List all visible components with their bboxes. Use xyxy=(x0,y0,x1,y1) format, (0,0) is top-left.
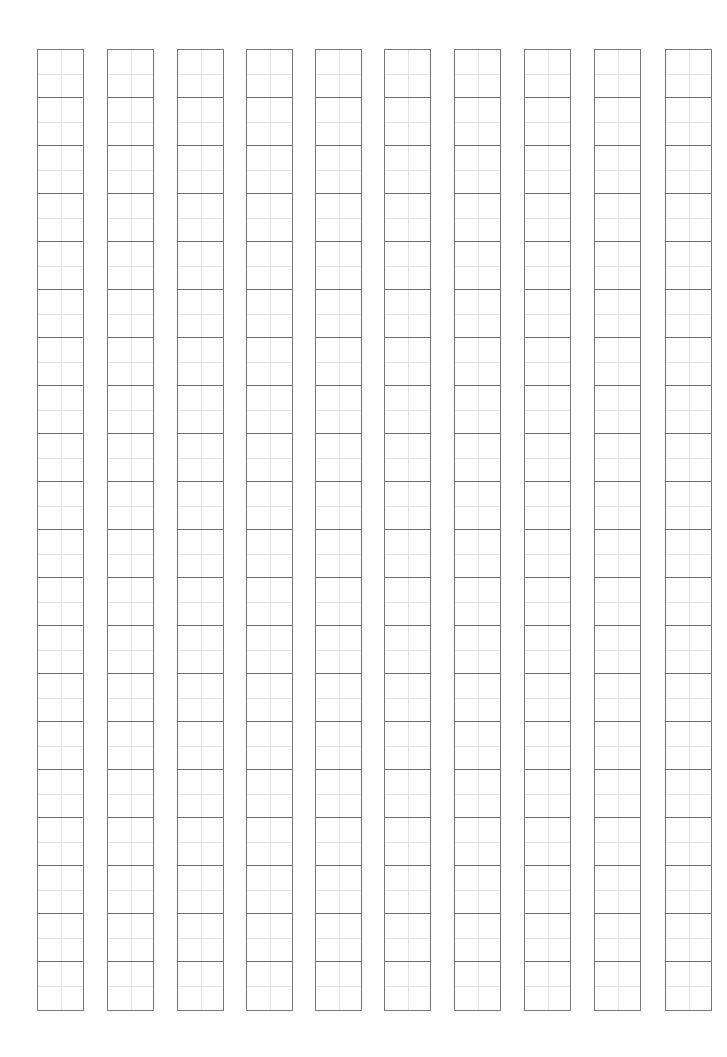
tianzige-cell xyxy=(247,146,292,194)
tianzige-cell xyxy=(525,146,570,194)
tianzige-cell xyxy=(316,578,361,626)
tianzige-cell xyxy=(316,530,361,578)
tianzige-cell xyxy=(316,482,361,530)
tianzige-cell xyxy=(385,818,430,866)
tianzige-cell xyxy=(595,386,640,434)
tianzige-cell xyxy=(247,626,292,674)
tianzige-cell xyxy=(595,50,640,98)
tianzige-cell xyxy=(455,866,500,914)
tianzige-cell xyxy=(178,50,223,98)
tianzige-cell xyxy=(385,146,430,194)
tianzige-cell xyxy=(178,722,223,770)
tianzige-cell xyxy=(385,866,430,914)
tianzige-cell xyxy=(38,770,83,818)
tianzige-cell xyxy=(38,146,83,194)
tianzige-cell xyxy=(108,626,153,674)
tianzige-cell xyxy=(178,482,223,530)
tianzige-cell xyxy=(385,242,430,290)
tianzige-cell xyxy=(247,722,292,770)
tianzige-cell xyxy=(247,770,292,818)
tianzige-cell xyxy=(385,98,430,146)
tianzige-cell xyxy=(178,578,223,626)
tianzige-cell xyxy=(385,482,430,530)
tianzige-cell xyxy=(666,578,711,626)
tianzige-cell xyxy=(38,866,83,914)
tianzige-cell xyxy=(455,578,500,626)
tianzige-cell xyxy=(666,722,711,770)
tianzige-cell xyxy=(595,626,640,674)
tianzige-cell xyxy=(385,962,430,1010)
tianzige-cell xyxy=(38,722,83,770)
tianzige-cell xyxy=(455,962,500,1010)
tianzige-cell xyxy=(595,674,640,722)
tianzige-cell xyxy=(666,818,711,866)
tianzige-cell xyxy=(385,386,430,434)
tianzige-cell xyxy=(247,866,292,914)
tianzige-cell xyxy=(247,50,292,98)
grid-column xyxy=(177,49,224,1011)
tianzige-cell xyxy=(455,194,500,242)
tianzige-cell xyxy=(525,290,570,338)
tianzige-cell xyxy=(178,770,223,818)
tianzige-cell xyxy=(108,482,153,530)
tianzige-cell xyxy=(247,194,292,242)
tianzige-cell xyxy=(455,674,500,722)
tianzige-cell xyxy=(595,866,640,914)
tianzige-cell xyxy=(316,194,361,242)
tianzige-cell xyxy=(666,146,711,194)
tianzige-cell xyxy=(455,386,500,434)
tianzige-cell xyxy=(525,578,570,626)
tianzige-cell xyxy=(38,98,83,146)
tianzige-cell xyxy=(385,434,430,482)
grid-column xyxy=(454,49,501,1011)
tianzige-cell xyxy=(595,914,640,962)
tianzige-cell xyxy=(247,962,292,1010)
tianzige-cell xyxy=(525,194,570,242)
tianzige-cell xyxy=(178,146,223,194)
tianzige-cell xyxy=(455,50,500,98)
practice-sheet xyxy=(0,0,727,1057)
tianzige-cell xyxy=(525,722,570,770)
tianzige-cell xyxy=(178,818,223,866)
tianzige-cell xyxy=(385,50,430,98)
tianzige-cell xyxy=(178,674,223,722)
tianzige-cell xyxy=(108,290,153,338)
grid-column xyxy=(37,49,84,1011)
tianzige-cell xyxy=(108,866,153,914)
tianzige-cell xyxy=(178,386,223,434)
tianzige-cell xyxy=(38,914,83,962)
tianzige-cell xyxy=(38,962,83,1010)
tianzige-cell xyxy=(316,674,361,722)
tianzige-cell xyxy=(247,290,292,338)
tianzige-cell xyxy=(38,482,83,530)
tianzige-cell xyxy=(247,434,292,482)
tianzige-cell xyxy=(38,290,83,338)
tianzige-cell xyxy=(525,626,570,674)
tianzige-cell xyxy=(108,50,153,98)
tianzige-cell xyxy=(666,194,711,242)
tianzige-cell xyxy=(316,722,361,770)
tianzige-cell xyxy=(247,242,292,290)
grid-column xyxy=(594,49,641,1011)
tianzige-cell xyxy=(666,914,711,962)
tianzige-cell xyxy=(178,866,223,914)
tianzige-cell xyxy=(455,338,500,386)
tianzige-cell xyxy=(247,386,292,434)
tianzige-cell xyxy=(316,98,361,146)
tianzige-cell xyxy=(38,242,83,290)
tianzige-cell xyxy=(178,290,223,338)
tianzige-cell xyxy=(247,674,292,722)
tianzige-cell xyxy=(108,770,153,818)
tianzige-cell xyxy=(108,338,153,386)
tianzige-cell xyxy=(595,818,640,866)
tianzige-cell xyxy=(38,434,83,482)
tianzige-cell xyxy=(455,434,500,482)
tianzige-cell xyxy=(525,914,570,962)
tianzige-cell xyxy=(525,242,570,290)
tianzige-cell xyxy=(247,338,292,386)
tianzige-cell xyxy=(385,578,430,626)
tianzige-cell xyxy=(385,530,430,578)
tianzige-cell xyxy=(666,770,711,818)
tianzige-cell xyxy=(455,818,500,866)
tianzige-cell xyxy=(316,338,361,386)
